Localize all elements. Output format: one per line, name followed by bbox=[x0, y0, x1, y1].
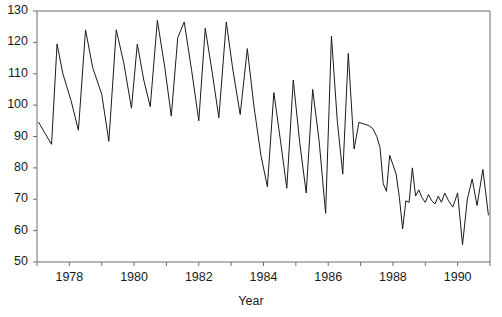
x-axis-title: Year bbox=[0, 294, 502, 308]
data-line-series-1 bbox=[39, 20, 489, 244]
y-tick-label: 130 bbox=[0, 3, 28, 17]
chart-figure: 5060708090100110120130 19781980198219841… bbox=[0, 0, 502, 317]
axis-frame bbox=[37, 11, 490, 262]
data-series-group bbox=[39, 20, 489, 244]
x-tick-label: 1984 bbox=[234, 270, 294, 284]
x-tick-label: 1990 bbox=[428, 270, 488, 284]
y-tick-label: 110 bbox=[0, 66, 28, 80]
x-tick-label: 1978 bbox=[39, 270, 99, 284]
y-tick-label: 90 bbox=[0, 129, 28, 143]
x-axis-ticks bbox=[37, 262, 490, 266]
x-tick-label: 1988 bbox=[363, 270, 423, 284]
x-tick-label: 1986 bbox=[298, 270, 358, 284]
x-tick-label: 1980 bbox=[104, 270, 164, 284]
y-tick-label: 60 bbox=[0, 223, 28, 237]
y-axis-ticks bbox=[33, 11, 37, 262]
y-tick-label: 50 bbox=[0, 254, 28, 268]
y-tick-label: 120 bbox=[0, 34, 28, 48]
y-tick-label: 70 bbox=[0, 191, 28, 205]
y-tick-label: 100 bbox=[0, 97, 28, 111]
x-tick-label: 1982 bbox=[169, 270, 229, 284]
y-tick-label: 80 bbox=[0, 160, 28, 174]
